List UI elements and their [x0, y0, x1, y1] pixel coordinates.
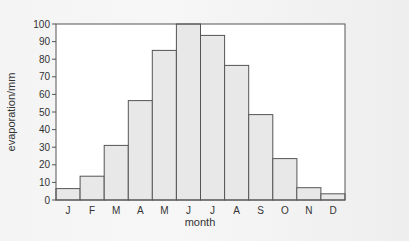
x-tick-label: A	[137, 205, 144, 216]
bar-0	[56, 189, 80, 200]
x-tick-label: A	[233, 205, 240, 216]
bar-9	[273, 159, 297, 200]
x-tick-label: S	[257, 205, 264, 216]
x-tick-label: J	[210, 205, 215, 216]
y-tick-label: 60	[39, 89, 51, 100]
bar-4	[152, 50, 176, 200]
bar-5	[176, 24, 200, 200]
evaporation-bar-chart: 0102030405060708090100 JFMAMJJASOND mont…	[0, 0, 409, 241]
bar-1	[80, 176, 104, 200]
x-tick-label: N	[305, 205, 312, 216]
x-tick-label: O	[281, 205, 289, 216]
x-tick-label: D	[329, 205, 336, 216]
y-tick-label: 100	[33, 19, 50, 30]
bar-11	[321, 194, 345, 200]
bar-6	[201, 35, 225, 200]
bar-8	[249, 115, 273, 200]
x-tick-label: M	[112, 205, 120, 216]
y-tick-label: 40	[39, 124, 51, 135]
x-tick-label: F	[89, 205, 95, 216]
y-tick-label: 20	[39, 159, 51, 170]
y-tick-label: 50	[39, 107, 51, 118]
bar-10	[297, 188, 321, 200]
x-tick-label: M	[160, 205, 168, 216]
bar-7	[225, 65, 249, 200]
bar-3	[128, 101, 152, 200]
y-tick-label: 80	[39, 54, 51, 65]
x-axis-title: month	[185, 216, 216, 228]
x-tick-label: J	[66, 205, 71, 216]
y-tick-label: 10	[39, 177, 51, 188]
y-tick-label: 90	[39, 36, 51, 47]
y-axis-title: evaporation/mm	[5, 73, 17, 152]
y-axis: 0102030405060708090100	[33, 19, 56, 206]
x-axis: JFMAMJJASOND	[66, 205, 337, 216]
x-tick-label: J	[186, 205, 191, 216]
bar-2	[104, 145, 128, 200]
y-tick-label: 0	[44, 195, 50, 206]
y-tick-label: 30	[39, 142, 51, 153]
y-tick-label: 70	[39, 71, 51, 82]
